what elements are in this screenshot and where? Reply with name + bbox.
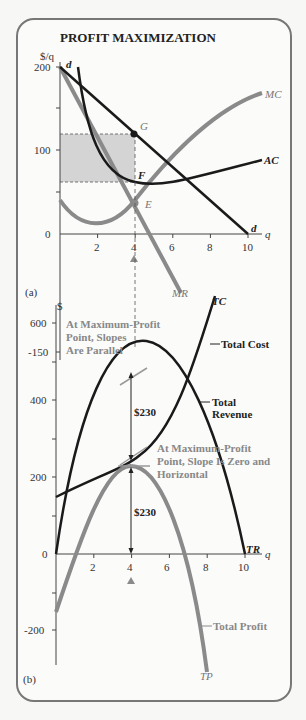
y-tick: -200 xyxy=(24,624,45,636)
x-tick: 10 xyxy=(238,561,250,573)
svg-text:Point, Slopes: Point, Slopes xyxy=(66,331,127,343)
x-tick: 2 xyxy=(94,241,100,253)
x-tick: 6 xyxy=(164,561,170,573)
panel-a: $/q 200 100 0 -150 2 4 6 8 10 q G F E xyxy=(25,50,282,360)
point-f-label: F xyxy=(137,169,146,181)
annotation-parallel: At Maximum-Profit xyxy=(66,318,161,330)
figure-title: PROFIT MAXIMIZATION xyxy=(60,30,216,45)
x-tick: 6 xyxy=(169,241,175,253)
svg-text:Point, Slope Is Zero and: Point, Slope Is Zero and xyxy=(157,455,270,467)
gap-lower-label: $230 xyxy=(134,506,157,518)
y-axis-label-b: $ xyxy=(57,300,63,312)
total-profit-label: Total Profit xyxy=(213,620,267,632)
tp-label: TP xyxy=(200,670,213,682)
profit-maximization-figure: PROFIT MAXIMIZATION $/q 200 100 0 -150 2… xyxy=(0,0,306,720)
q-star-marker-b xyxy=(127,577,135,584)
y-tick: 200 xyxy=(30,471,47,483)
d-label-bottom: d xyxy=(251,222,257,234)
y-tick: 100 xyxy=(34,144,51,156)
y-tick: 400 xyxy=(30,394,47,406)
panel-b-label: (b) xyxy=(23,673,36,686)
mr-label: MR xyxy=(171,287,188,299)
point-g-label: G xyxy=(140,120,148,132)
x-tick: 4 xyxy=(131,241,137,253)
x-tick: 10 xyxy=(242,241,254,253)
panel-a-label: (a) xyxy=(25,286,38,299)
ac-label: AC xyxy=(263,154,279,166)
x-tick: 8 xyxy=(207,241,213,253)
svg-text:Are Parallel: Are Parallel xyxy=(66,344,123,356)
total-cost-label: Total Cost xyxy=(221,338,270,350)
x-axis-label-b: q xyxy=(265,548,271,560)
y-tick: 600 xyxy=(30,317,47,329)
y-tick: -150 xyxy=(28,346,49,358)
total-revenue-label: Total xyxy=(212,396,236,408)
mc-label: MC xyxy=(264,88,282,100)
x-tick: 4 xyxy=(127,561,133,573)
y-tick: 200 xyxy=(34,61,51,73)
tc-tangent xyxy=(120,447,147,465)
x-tick: 2 xyxy=(90,561,96,573)
tr-label: TR xyxy=(246,543,260,555)
tc-label: TC xyxy=(212,295,227,307)
x-axis-label-a: q xyxy=(265,228,271,240)
svg-text:Revenue: Revenue xyxy=(212,408,252,420)
q-star-marker-a xyxy=(130,255,138,262)
point-g xyxy=(131,131,138,138)
y-tick: 0 xyxy=(42,548,48,560)
point-e-label: E xyxy=(144,198,152,210)
svg-text:Horizontal: Horizontal xyxy=(157,468,208,480)
d-label-top: d xyxy=(66,58,72,70)
annotation-slope-zero: At Maximum-Profit xyxy=(157,442,252,454)
tr-tangent xyxy=(120,368,147,385)
gap-upper-label: $230 xyxy=(134,406,157,418)
x-tick: 8 xyxy=(203,561,209,573)
y-tick: 0 xyxy=(45,228,51,240)
